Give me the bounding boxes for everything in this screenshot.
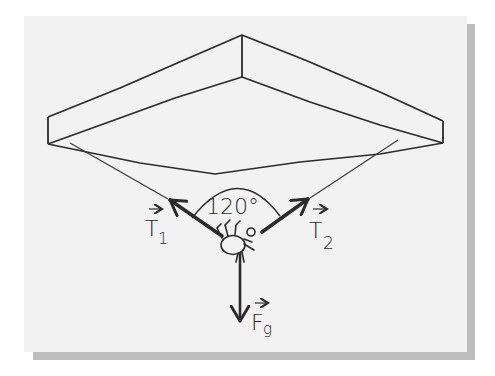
thread-right <box>310 140 398 198</box>
spider-icon <box>217 220 255 262</box>
svg-text:T: T <box>145 216 158 241</box>
web-edge <box>48 143 443 174</box>
svg-text:1: 1 <box>158 229 168 248</box>
free-body-diagram: 120° T 1 T 2 F g <box>0 0 495 376</box>
angle-label: 120° <box>206 194 259 219</box>
svg-text:2: 2 <box>323 233 334 253</box>
label-fg: F g <box>251 303 272 338</box>
ceiling-slab <box>48 35 443 144</box>
thread-left <box>70 143 168 199</box>
svg-text:T: T <box>309 218 322 243</box>
svg-text:g: g <box>263 320 272 338</box>
label-t2: T 2 <box>309 209 334 253</box>
svg-text:F: F <box>251 310 264 335</box>
label-t1: T 1 <box>145 209 168 248</box>
